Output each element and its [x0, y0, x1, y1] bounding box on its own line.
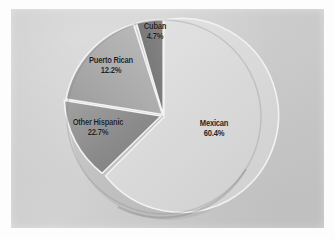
slice-label-cuban-percent: 4.7%	[131, 31, 179, 41]
slice-label-other-hispanic-percent: 22.7%	[52, 127, 144, 137]
slice-label-puerto-rican: Puerto Rican 12.2%	[73, 55, 149, 76]
pie-chart-figure: Mexican 60.4% Other Hispanic 22.7% Puert…	[0, 0, 335, 239]
slice-label-mexican-percent: 60.4%	[181, 128, 248, 138]
slice-label-other-hispanic: Other Hispanic 22.7%	[52, 117, 144, 138]
slice-label-cuban-name: Cuban	[144, 21, 166, 31]
slice-label-puerto-rican-percent: 12.2%	[73, 65, 149, 75]
pie-chart-plot-area: Mexican 60.4% Other Hispanic 22.7% Puert…	[0, 0, 335, 239]
slice-label-mexican-name: Mexican	[200, 118, 228, 128]
slice-label-mexican: Mexican 60.4%	[181, 118, 248, 139]
slice-label-other-hispanic-name: Other Hispanic	[73, 117, 124, 127]
slice-label-cuban: Cuban 4.7%	[131, 21, 179, 42]
slice-label-puerto-rican-name: Puerto Rican	[89, 55, 133, 65]
